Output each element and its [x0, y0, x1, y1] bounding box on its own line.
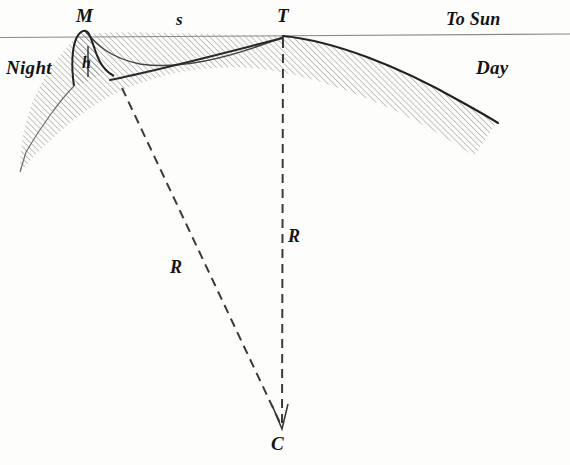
label-night-side: Night: [6, 58, 52, 77]
radius-right-dashed-line: [282, 39, 283, 429]
label-earth-center: C: [271, 434, 284, 453]
label-day-side: Day: [476, 58, 509, 77]
label-radius-left: R: [170, 258, 182, 276]
label-radius-right: R: [288, 227, 300, 245]
label-tangent-point: T: [277, 6, 289, 25]
center-convergence-mark: [272, 404, 288, 429]
label-arc-distance: s: [176, 11, 183, 28]
label-mountain-peak: M: [76, 6, 93, 25]
label-sun-direction: To Sun: [446, 10, 501, 28]
label-mountain-height: h: [82, 55, 91, 71]
earth-curvature-diagram: M s T To Sun Night h Day R R C: [0, 0, 570, 465]
radius-left-dashed-line: [122, 88, 282, 427]
